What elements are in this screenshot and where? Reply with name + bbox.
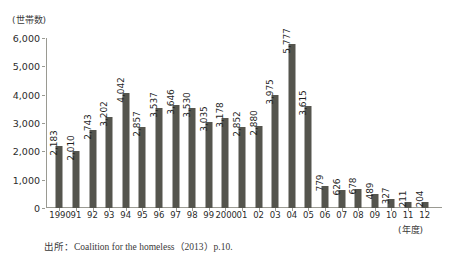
bar-value-label: 2,880 [249,111,259,136]
bar-item: 3,537 [151,38,167,208]
bar [189,108,196,208]
bar-value-label: 2,743 [83,115,93,140]
bar [288,44,295,208]
bar-value-label: 2,852 [232,112,242,137]
bar [205,122,212,208]
bar-item: 2,880 [251,38,267,208]
y-axis-tick-label: 2,000 [13,146,40,157]
bar-item: 2,852 [234,38,250,208]
bar-value-label: 3,646 [166,89,176,114]
y-axis-tick-label: 5,000 [13,61,40,72]
bar-item: 779 [317,38,333,208]
bar-value-label: 2,857 [132,111,142,136]
bar-value-label: 779 [315,174,325,191]
bar [139,127,146,208]
bar [255,126,262,208]
bar [122,93,129,208]
bar-value-label: 4,042 [116,78,126,103]
y-axis-tick-label: 4,000 [13,89,40,100]
y-axis-tick-mark [42,208,45,209]
bar-value-label: 3,537 [149,92,159,117]
y-axis-tick-label: 3,000 [13,118,40,129]
plot-area: 2,1832,0102,7433,2024,0422,8573,5373,646… [46,38,442,208]
bar-item: 5,777 [284,38,300,208]
bar [89,130,96,208]
bar-item: 211 [400,38,416,208]
source-note: 出所：Coalition for the homeless（2013）p.10. [44,239,233,253]
y-axis-tick-labels: 6,0005,0004,0003,0002,0001,0000 [0,38,42,208]
y-axis-tick-label: 6,000 [13,33,40,44]
y-axis-tick-mark [42,180,45,181]
bar-value-label: 2,010 [66,135,76,160]
x-axis-tick-labels: 1990919293949596979899200001020304050607… [46,210,442,224]
bar [222,118,229,208]
bar-value-label: 3,202 [99,102,109,127]
bar-item: 678 [350,38,366,208]
bar-item: 3,975 [267,38,283,208]
y-axis-unit-label: (世帯数) [12,13,46,26]
bar-item: 3,646 [168,38,184,208]
bar [172,105,179,208]
y-axis-tick-mark [42,123,45,124]
y-axis-tick-label: 0 [34,203,40,214]
y-axis-tick-mark [42,95,45,96]
bar-value-label: 204 [415,191,425,208]
bar-value-label: 5,777 [282,29,292,54]
bar [272,95,279,208]
bar-value-label: 327 [381,187,391,204]
bar-item: 327 [383,38,399,208]
y-axis-tick-label: 1,000 [13,174,40,185]
x-axis-unit-label: (年度) [398,223,423,236]
bar-item: 3,178 [217,38,233,208]
bar [106,117,113,208]
bar-value-label: 489 [365,183,375,200]
bar-series: 2,1832,0102,7433,2024,0422,8573,5373,646… [46,38,442,208]
bar-value-label: 3,615 [298,90,308,115]
y-axis-tick-mark [42,38,45,39]
bar-item: 3,202 [101,38,117,208]
bar-value-label: 3,530 [182,92,192,117]
x-axis-tick-label: 12 [415,210,435,220]
bar-value-label: 3,178 [215,102,225,127]
bar-value-label: 626 [332,179,342,196]
bar-item: 489 [367,38,383,208]
bar-item: 204 [417,38,433,208]
bar [305,106,312,208]
bar-item: 2,010 [68,38,84,208]
bar-value-label: 678 [348,177,358,194]
bar-value-label: 211 [398,191,408,208]
bar-value-label: 3,975 [265,80,275,105]
chart-figure: (世帯数) 6,0005,0004,0003,0002,0001,0000 2,… [0,0,449,259]
bar-item: 2,183 [51,38,67,208]
bar [239,127,246,208]
y-axis-tick-mark [42,66,45,67]
bar-item: 2,857 [134,38,150,208]
y-axis-tick-mark [42,151,45,152]
bar-value-label: 2,183 [49,131,59,156]
bar [155,108,162,208]
bar-item: 3,530 [184,38,200,208]
bar-value-label: 3,035 [199,106,209,131]
